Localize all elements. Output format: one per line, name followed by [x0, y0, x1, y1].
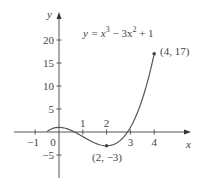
y-tick-label: 15 — [43, 57, 55, 69]
y-tick-label: 10 — [43, 80, 55, 92]
annotation-min: (2, −3) — [92, 151, 122, 164]
x-tick-label: −1 — [27, 136, 39, 148]
x-axis-arrow-icon — [184, 130, 191, 135]
annotation-endpoint: (4, 17) — [160, 45, 190, 58]
x-axis-label: x — [185, 138, 191, 150]
x-tick-label: 2 — [104, 117, 110, 129]
x-tick-label: 4 — [151, 136, 157, 148]
y-tick-label: −5 — [42, 149, 54, 161]
y-tick-label: 5 — [49, 103, 55, 115]
y-axis-arrow-icon — [57, 12, 62, 19]
x-tick-label: 3 — [128, 136, 134, 148]
y-tick-label: 20 — [43, 34, 55, 46]
x-tick-label: 0 — [50, 136, 56, 148]
point-min — [105, 144, 109, 148]
chart-title: y = x3 − 3x2 + 1 — [82, 25, 154, 39]
point-endpoint — [152, 52, 156, 56]
x-tick-label: 1 — [80, 117, 86, 129]
chart: −101234 −55101520 x y (2, −3) (4, 17) y … — [0, 0, 204, 184]
y-axis-label: y — [46, 8, 52, 20]
